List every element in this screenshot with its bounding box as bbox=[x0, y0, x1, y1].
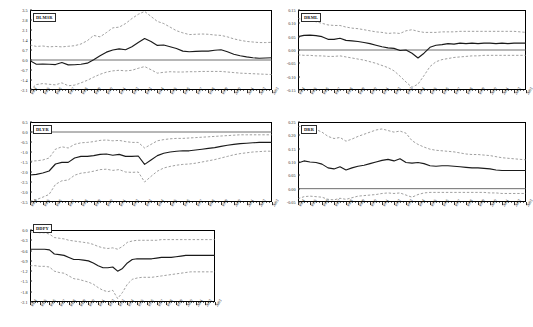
x-tick-minor bbox=[511, 202, 512, 203]
y-tick-label: 0.15 bbox=[288, 146, 298, 151]
x-tick-minor bbox=[307, 90, 308, 91]
x-tick-minor bbox=[523, 90, 524, 91]
y-tick-label: 0.10 bbox=[288, 160, 298, 165]
x-tick-minor bbox=[103, 90, 104, 91]
x-tick-minor bbox=[307, 202, 308, 203]
x-tick-minor bbox=[113, 90, 114, 91]
x-tick-minor bbox=[231, 90, 232, 91]
x-tick-minor bbox=[523, 202, 524, 203]
x-tick-minor bbox=[379, 90, 380, 91]
x-tick-minor bbox=[75, 90, 76, 91]
x-tick-minor bbox=[451, 90, 452, 91]
y-tick-label: 0.25 bbox=[288, 120, 298, 125]
x-tick-minor bbox=[463, 202, 464, 203]
series-upper_band bbox=[298, 19, 526, 34]
x-tick-minor bbox=[475, 90, 476, 91]
chart-panel-drr: DRR 0.250.200.150.100.050.00-0.05 198419… bbox=[298, 122, 526, 202]
x-tick-minor bbox=[65, 90, 66, 91]
y-tick-label: -1.4 bbox=[21, 78, 30, 83]
y-tick-label: -2.5 bbox=[21, 180, 30, 185]
x-tick-minor bbox=[192, 202, 193, 203]
y-tick-label: 0.15 bbox=[288, 8, 298, 13]
x-tick-minor bbox=[319, 202, 320, 203]
x-tick-minor bbox=[129, 90, 130, 91]
x-tick-minor bbox=[256, 202, 257, 203]
x-tick-minor bbox=[269, 90, 270, 91]
x-tick-minor bbox=[379, 202, 380, 203]
x-tick-minor bbox=[231, 202, 232, 203]
x-tick-minor bbox=[103, 202, 104, 203]
y-tick-label: -1.5 bbox=[21, 160, 30, 165]
x-tick-minor bbox=[355, 202, 356, 203]
x-tick-minor bbox=[499, 90, 500, 91]
y-tick-label: 2.8 bbox=[22, 18, 30, 23]
x-tick-minor bbox=[116, 90, 117, 91]
x-tick-minor bbox=[116, 202, 117, 203]
y-tick-label: -1.2 bbox=[21, 269, 30, 274]
y-tick-label: -3.0 bbox=[21, 190, 30, 195]
series-estimate bbox=[298, 159, 526, 171]
x-tick-minor bbox=[40, 90, 41, 91]
x-axis-drr: 1984198519861987198819891990199119921993… bbox=[298, 202, 526, 224]
panel-title-dlm3r: DLM3R bbox=[33, 13, 56, 22]
x-tick-minor bbox=[113, 202, 114, 203]
series-plot-drml bbox=[298, 10, 526, 90]
x-tick-minor bbox=[167, 90, 168, 91]
x-tick-minor bbox=[192, 90, 193, 91]
x-tick-minor bbox=[331, 202, 332, 203]
y-tick-label: 0.0 bbox=[22, 130, 30, 135]
y-tick-label: -0.05 bbox=[287, 61, 298, 66]
x-axis-dlm3r: 1984198519861987198819891990199119921993… bbox=[30, 90, 272, 112]
chart-panel-ddpy: DDPY 0.0-0.3-0.6-0.9-1.2-1.5-1.8-2.1 198… bbox=[30, 230, 215, 302]
y-tick-label: -0.9 bbox=[21, 258, 30, 263]
series-estimate bbox=[30, 249, 215, 271]
y-tick-label: 0.10 bbox=[288, 21, 298, 26]
x-tick-minor bbox=[62, 90, 63, 91]
x-tick-minor bbox=[91, 90, 92, 91]
series-upper_band bbox=[30, 232, 215, 249]
series-plot-dlm3r bbox=[30, 10, 272, 90]
x-tick-minor bbox=[439, 202, 440, 203]
y-tick-label: -1.8 bbox=[21, 289, 30, 294]
y-tick-label: -0.3 bbox=[21, 238, 30, 243]
y-tick-label: 2.1 bbox=[22, 28, 30, 33]
series-estimate bbox=[30, 39, 272, 65]
x-tick-label: 2003 bbox=[525, 86, 533, 96]
x-tick-minor bbox=[243, 90, 244, 91]
series-upper_band bbox=[298, 126, 526, 160]
x-tick-minor bbox=[78, 90, 79, 91]
chart-panel-dlm3r: DLM3R 3.52.82.11.40.70.0-0.7-1.4-2.1 198… bbox=[30, 10, 272, 90]
x-tick-minor bbox=[75, 202, 76, 203]
x-tick-minor bbox=[193, 302, 194, 303]
x-tick-minor bbox=[183, 302, 184, 303]
x-tick-minor bbox=[52, 90, 53, 91]
x-tick-minor bbox=[78, 202, 79, 203]
x-tick-minor bbox=[37, 302, 38, 303]
panel-title-drml: DRML bbox=[301, 13, 321, 22]
x-tick-minor bbox=[415, 202, 416, 203]
x-tick-minor bbox=[180, 202, 181, 203]
y-tick-label: 0.05 bbox=[288, 173, 298, 178]
x-tick-minor bbox=[487, 202, 488, 203]
y-tick-label: -0.6 bbox=[21, 248, 30, 253]
series-plot-ddpy bbox=[30, 230, 215, 302]
x-tick-minor bbox=[141, 202, 142, 203]
x-tick-label: 2003 bbox=[271, 198, 280, 208]
x-tick-minor bbox=[343, 90, 344, 91]
x-tick-minor bbox=[427, 202, 428, 203]
chart-panel-drml: DRML 0.150.100.050.00-0.05-0.10-0.15 198… bbox=[298, 10, 526, 90]
x-tick-minor bbox=[205, 90, 206, 91]
x-tick-minor bbox=[213, 302, 214, 303]
x-tick-minor bbox=[164, 90, 165, 91]
x-tick-minor bbox=[266, 90, 267, 91]
series-estimate bbox=[30, 142, 272, 175]
y-tick-label: -0.7 bbox=[21, 68, 30, 73]
panel-title-dlyr: DLYR bbox=[33, 125, 52, 134]
x-tick-minor bbox=[174, 302, 175, 303]
x-tick-minor bbox=[499, 202, 500, 203]
series-upper_band bbox=[30, 135, 272, 161]
series-estimate bbox=[298, 35, 526, 58]
y-tick-label: -0.10 bbox=[287, 74, 298, 79]
figure-multi-panel-chart: DLM3R 3.52.82.11.40.70.0-0.7-1.4-2.1 198… bbox=[0, 0, 533, 327]
x-tick-label: 2003 bbox=[271, 86, 280, 96]
